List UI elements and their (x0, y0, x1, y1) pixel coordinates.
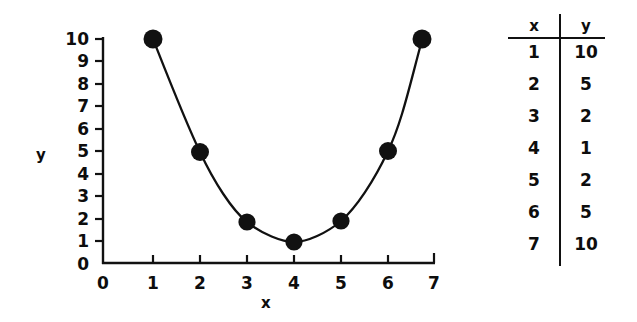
y-tick-label-5: 5 (55, 143, 89, 160)
x-axis-ticks (153, 253, 434, 263)
data-curve (153, 39, 422, 242)
x-tick-label-5: 5 (329, 275, 353, 292)
table-row: 5 (566, 204, 606, 221)
table-row: 1 (566, 140, 606, 157)
y-axis-title: y (36, 148, 46, 163)
y-tick-label-0: 0 (55, 256, 89, 273)
x-tick-label-0: 0 (91, 275, 115, 292)
data-point-markers (144, 30, 432, 251)
data-point-5 (332, 212, 349, 229)
x-axis-title: x (261, 296, 271, 311)
y-tick-label-9: 9 (55, 53, 89, 70)
y-tick-label-4: 4 (55, 166, 89, 183)
x-tick-label-7: 7 (422, 275, 446, 292)
table-row: 2 (566, 108, 606, 125)
data-point-4 (285, 233, 302, 250)
data-table: x y 1 10 2 5 3 2 4 1 5 2 6 5 7 10 (495, 0, 637, 322)
data-point-6 (379, 142, 397, 160)
data-point-3 (238, 213, 255, 230)
y-tick-label-3: 3 (55, 188, 89, 205)
x-tick-label-1: 1 (141, 275, 165, 292)
data-point-2 (191, 143, 209, 161)
x-tick-label-6: 6 (376, 275, 400, 292)
table-column-divider (559, 14, 561, 266)
x-tick-label-2: 2 (188, 275, 212, 292)
table-row: 2 (566, 172, 606, 189)
y-tick-label-8: 8 (55, 76, 89, 93)
table-row: 6 (514, 204, 554, 221)
line-chart: 10 9 8 7 6 5 4 3 2 1 0 0 1 2 3 4 5 6 7 y… (0, 0, 470, 322)
table-header-x: x (514, 19, 554, 34)
y-tick-label-10: 10 (55, 31, 89, 48)
table-header-divider (508, 37, 605, 39)
table-row: 5 (514, 172, 554, 189)
table-row: 7 (514, 236, 554, 253)
table-row: 2 (514, 76, 554, 93)
y-tick-label-7: 7 (55, 98, 89, 115)
table-header-y: y (566, 19, 606, 34)
table-row: 10 (566, 236, 606, 253)
y-tick-label-6: 6 (55, 121, 89, 138)
table-row: 3 (514, 108, 554, 125)
y-tick-label-2: 2 (55, 211, 89, 228)
table-row: 5 (566, 76, 606, 93)
table-row: 1 (514, 44, 554, 61)
x-tick-label-3: 3 (235, 275, 259, 292)
data-point-1 (144, 30, 163, 49)
x-tick-label-4: 4 (282, 275, 306, 292)
table-row: 10 (566, 44, 606, 61)
table-row: 4 (514, 140, 554, 157)
figure-page: 10 9 8 7 6 5 4 3 2 1 0 0 1 2 3 4 5 6 7 y… (0, 0, 637, 322)
data-point-7 (413, 30, 432, 49)
y-tick-label-1: 1 (55, 233, 89, 250)
